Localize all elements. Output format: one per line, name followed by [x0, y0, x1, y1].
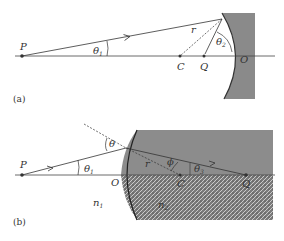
panel-b: P O C Q r θ θ1 ϕ θ3 n1 n2 (b) [13, 124, 275, 227]
normal-line [84, 124, 126, 148]
label-C-b: C [177, 178, 185, 189]
label-C: C [177, 61, 185, 72]
label-phi: ϕ [167, 156, 174, 167]
panel-a: P C Q O r θ1 θ2 (a) [13, 13, 275, 104]
label-O-b: O [111, 177, 119, 188]
label-P-b: P [19, 159, 27, 170]
caption-a: (a) [13, 94, 25, 104]
label-Q-b: Q [242, 178, 250, 189]
label-theta1-b: θ1 [84, 163, 94, 175]
optics-diagram: P C Q O r θ1 θ2 (a) P O [0, 0, 284, 241]
label-r: r [191, 24, 197, 35]
label-n1: n1 [93, 197, 103, 209]
incident-ray-b [22, 148, 126, 175]
caption-b: (b) [13, 217, 26, 227]
label-P: P [19, 41, 27, 52]
label-theta: θ [109, 138, 115, 149]
label-theta2: θ2 [216, 36, 226, 48]
label-theta1: θ1 [93, 45, 103, 57]
label-O: O [240, 54, 248, 65]
label-Q: Q [200, 61, 208, 72]
